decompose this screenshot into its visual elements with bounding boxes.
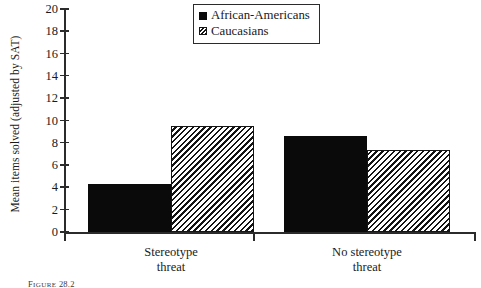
caption-word: IGURE: [33, 281, 57, 288]
y-tick-mark: [60, 75, 69, 77]
bar-hatched-group2: [367, 150, 450, 233]
legend-item: African-Americans: [199, 8, 310, 24]
y-tick-mark: [60, 120, 69, 122]
bar-solid-group2: [284, 136, 367, 232]
solid-square-icon: [199, 12, 207, 20]
y-tick-label: 8: [52, 135, 58, 150]
y-tick-label: 20: [46, 2, 59, 17]
x-axis-label-group2: No stereotypethreat: [244, 245, 481, 274]
caption-number: 28.2: [57, 279, 75, 288]
bar-hatched-group1: [171, 126, 254, 232]
y-tick-mark: [60, 186, 69, 188]
legend-item: Caucasians: [199, 24, 310, 40]
x-tick-mark: [253, 232, 255, 241]
legend-item-label: Caucasians: [211, 24, 269, 40]
chart-legend: African-AmericansCaucasians: [193, 4, 320, 44]
y-tick-label: 12: [46, 91, 59, 106]
y-tick-mark: [60, 8, 69, 10]
y-tick-mark: [60, 53, 69, 55]
y-tick-mark: [60, 97, 69, 99]
y-tick-mark: [60, 209, 69, 211]
y-tick-label: 14: [46, 68, 59, 83]
y-tick-mark: [60, 142, 69, 144]
y-tick-label: 10: [46, 113, 59, 128]
x-axis-label-line: threat: [244, 260, 481, 275]
hatched-square-icon: [199, 27, 207, 35]
x-tick-mark: [474, 232, 476, 241]
y-tick-label: 4: [52, 180, 58, 195]
bar-solid-group1: [88, 184, 171, 232]
figure-28-2: Mean items solved (adjusted by SAT) 0246…: [0, 0, 481, 288]
figure-caption: FIGURE 28.2: [28, 279, 75, 288]
y-tick-label: 2: [52, 202, 58, 217]
y-tick-mark: [60, 164, 69, 166]
y-tick-label: 18: [46, 24, 59, 39]
x-tick-mark: [64, 232, 66, 241]
y-tick-mark: [60, 30, 69, 32]
x-axis-line: [64, 232, 476, 234]
y-tick-label: 0: [52, 225, 58, 240]
y-tick-label: 6: [52, 158, 58, 173]
legend-item-label: African-Americans: [211, 8, 310, 24]
x-axis-label-line: No stereotype: [244, 245, 481, 260]
y-tick-label: 16: [46, 46, 59, 61]
y-axis-title: Mean items solved (adjusted by SAT): [9, 10, 21, 238]
